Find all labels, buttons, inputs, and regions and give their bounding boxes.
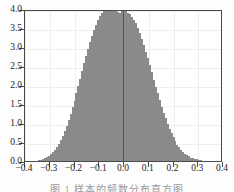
y-tick-label: 1.0 [10, 119, 22, 129]
y-tick-label: 3.0 [10, 43, 22, 53]
y-tick-label: 2.5 [10, 62, 22, 72]
y-tick-label: 3.5 [10, 24, 22, 34]
y-tick-label: 4.0 [10, 5, 22, 15]
histogram-bar [200, 160, 202, 161]
y-tick-label: 0.5 [10, 138, 22, 148]
figure-caption: 图 1 样本的频数分布直方图 [0, 181, 234, 192]
y-tick-label: 1.5 [10, 100, 22, 110]
x-tick-label: 0.4 [207, 164, 234, 174]
center-reference-line [123, 10, 124, 161]
plot-area [24, 10, 222, 162]
y-tick-label: 2.0 [10, 81, 22, 91]
figure-container: 0.00.51.01.52.02.53.03.54.0 −0.4−0.3−0.2… [0, 0, 234, 192]
